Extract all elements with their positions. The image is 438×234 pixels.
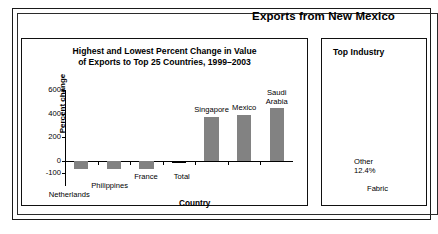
bar (172, 161, 186, 163)
bar (107, 161, 121, 169)
bar (74, 161, 88, 169)
chart-title: Highest and Lowest Percent Change in Val… (22, 46, 307, 68)
y-axis-tick-mark (62, 173, 65, 174)
top-industry-panel: Top Industry Other 12.4% Fabric (321, 38, 427, 206)
pie-slice-other-name: Other (354, 157, 373, 166)
y-axis-tick-label: 200 (48, 134, 61, 142)
pie-slice-fabricated-label: Fabric (367, 184, 388, 193)
bar (204, 117, 218, 161)
bar (270, 108, 284, 161)
bar-category-label: France (134, 173, 158, 182)
y-axis-tick-label: 400 (48, 110, 61, 118)
x-axis-tick-mark (228, 162, 229, 165)
x-axis-tick-mark (130, 162, 131, 165)
y-axis-tick-label: 0 (57, 157, 61, 165)
chart-title-line-2: of Exports to Top 25 Countries, 1999–200… (78, 57, 251, 67)
bar-category-label: SaudiArabia (251, 89, 303, 106)
pie-slice-other-label: Other 12.4% (354, 157, 376, 175)
bar (237, 115, 251, 161)
bar-chart-plot: Percent change 6004002000-100 SingaporeM… (65, 90, 293, 173)
chart-panel: Highest and Lowest Percent Change in Val… (21, 38, 308, 206)
x-axis-tick-mark (163, 162, 164, 165)
bar-category-label: Total (174, 173, 190, 182)
y-axis-tick-mark (62, 90, 65, 91)
chart-title-line-1: Highest and Lowest Percent Change in Val… (73, 46, 257, 56)
industry-panel-title: Top Industry (322, 47, 426, 58)
y-axis-tick-label: 600 (48, 86, 61, 94)
bar (139, 161, 153, 169)
x-axis-label: Country (179, 199, 210, 208)
y-axis-tick-mark (62, 114, 65, 115)
x-axis-tick-mark (195, 162, 196, 165)
page-title: Exports from New Mexico (0, 10, 395, 22)
y-axis-tick-mark (62, 161, 65, 162)
bar-category-label: Philippines (91, 182, 128, 191)
x-axis-tick-mark (260, 162, 261, 165)
y-axis-line (65, 90, 66, 186)
y-axis-tick-label: -100 (46, 169, 61, 177)
y-axis-tick-mark (62, 137, 65, 138)
pie-slice-other-value: 12.4% (354, 166, 376, 175)
x-axis-tick-mark (98, 162, 99, 165)
bar-category-label: Netherlands (49, 191, 90, 200)
